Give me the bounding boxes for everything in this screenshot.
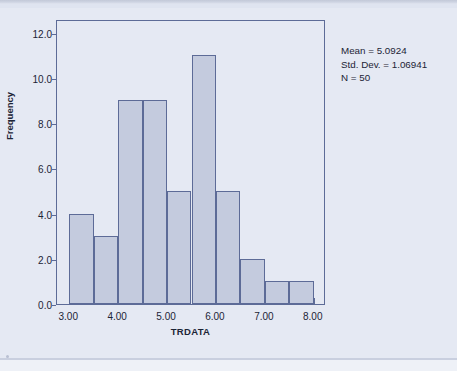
x-axis-inner-tick [69,298,70,304]
y-axis-title: Frequency [4,126,15,140]
x-tick-label: 7.00 [241,311,287,322]
stat-n: N = 50 [341,71,427,85]
x-tick-label: 8.00 [290,311,336,322]
y-tick-label: 8.0 [18,119,52,130]
x-axis-inner-tick [118,298,119,304]
x-axis-inner-tick [167,298,168,304]
histogram-bar [69,214,93,304]
y-tick-label: 0.0 [18,300,52,311]
histogram-screenshot: 0.02.04.06.08.010.012.0 Frequency 3.004.… [0,0,457,371]
stat-stddev: Std. Dev. = 1.06941 [341,58,427,72]
histogram-bar [167,191,191,304]
scan-speck [6,355,9,358]
top-scan-band-secondary [0,4,457,8]
plot-area [56,20,325,305]
y-tick-label: 2.0 [18,254,52,265]
y-axis: 0.02.04.06.08.010.012.0 [14,20,52,305]
y-tick-label: 10.0 [18,73,52,84]
x-axis-inner-tick [94,298,95,304]
stat-mean: Mean = 5.0924 [341,44,427,58]
x-axis-title: TRDATA [56,326,325,337]
y-tick-label: 6.0 [18,164,52,175]
x-axis-inner-tick [265,298,266,304]
bars-container [57,21,324,304]
x-tick-label: 4.00 [94,311,140,322]
y-tick-label: 4.0 [18,209,52,220]
statistics-annotation: Mean = 5.0924 Std. Dev. = 1.06941 N = 50 [341,44,427,85]
x-axis-inner-tick [314,298,315,304]
x-axis-inner-tick [143,298,144,304]
x-tick-label: 5.00 [143,311,189,322]
x-axis-inner-tick [216,298,217,304]
histogram-bar [289,281,313,304]
histogram-bar [192,55,216,304]
x-tick-label: 3.00 [45,311,91,322]
histogram-bar [143,100,167,304]
y-tick-label: 12.0 [18,28,52,39]
x-axis: 3.004.005.006.007.008.00 [56,305,325,327]
histogram-bar [265,281,289,304]
x-axis-inner-tick [192,298,193,304]
histogram-bar [94,236,118,304]
histogram-bar [216,191,240,304]
histogram-bar [240,259,264,304]
histogram-bar [118,100,142,304]
x-axis-inner-tick [240,298,241,304]
x-tick-label: 6.00 [192,311,238,322]
bottom-scan-band [0,360,457,371]
x-axis-inner-tick [289,298,290,304]
